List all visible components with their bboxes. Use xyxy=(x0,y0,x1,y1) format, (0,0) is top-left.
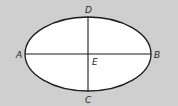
label-B: B xyxy=(154,50,160,60)
label-E: E xyxy=(92,57,98,67)
label-A: A xyxy=(15,50,22,60)
ellipse-diagram: A B D C E xyxy=(0,0,178,106)
label-C: C xyxy=(85,95,92,105)
label-D: D xyxy=(85,5,92,15)
diagram-svg: A B D C E xyxy=(0,0,178,106)
